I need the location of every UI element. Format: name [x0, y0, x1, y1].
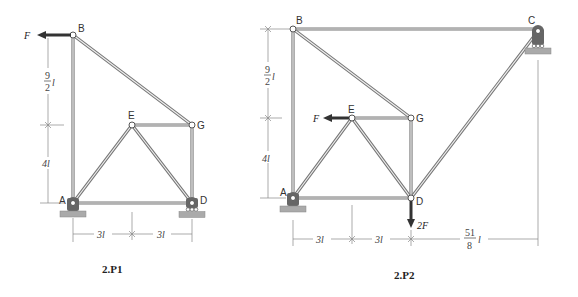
dim-upper-l-2p1: l	[52, 77, 55, 88]
dim-right-span-2p1: 3l	[156, 229, 165, 240]
dim-upper-l-2p2: l	[272, 71, 275, 82]
load-f-arrow-2p2	[323, 114, 349, 122]
dim-span2-2p2: 3l	[374, 234, 383, 245]
node-g-label-2p2: G	[416, 113, 424, 124]
node-d-label-2p2: D	[416, 196, 423, 207]
load-2f-arrow-2p2	[407, 201, 415, 228]
horizontal-dimension-2p1	[73, 212, 192, 242]
truss-diagrams: F B E G A D 9 2 l 4l	[0, 0, 578, 297]
node-b-label-2p2: B	[296, 15, 303, 26]
dim-upper-num-2p2: 9	[265, 64, 270, 75]
load-2f-label-2p2: 2F	[417, 220, 429, 231]
node-b-label-2p1: B	[78, 23, 85, 34]
load-f-arrow-2p1	[37, 31, 71, 39]
figure-2p1: F B E G A D 9 2 l 4l	[23, 23, 207, 275]
load-f-label-2p2: F	[312, 113, 320, 124]
node-a-label-2p2: A	[280, 187, 287, 198]
dim-span3-num-2p2: 51	[465, 227, 475, 238]
vertical-dimension-2p1	[40, 38, 64, 203]
caption-2p1: 2.P1	[102, 263, 122, 275]
horizontal-dimension-2p2	[293, 60, 538, 246]
node-d-label-2p1: D	[200, 195, 207, 206]
dim-lower-2p1: 4l	[42, 158, 50, 169]
dim-span3-den-2p2: 8	[467, 240, 472, 251]
dim-span3-l-2p2: l	[478, 234, 481, 245]
node-g-label-2p1: G	[197, 120, 205, 131]
load-f-label-2p1: F	[23, 30, 31, 41]
vertical-dimension-2p2	[260, 26, 290, 198]
node-e-label-2p2: E	[348, 104, 355, 115]
dim-span1-2p2: 3l	[315, 234, 324, 245]
caption-2p2: 2.P2	[394, 269, 415, 281]
dim-upper-den-2p2: 2	[265, 76, 270, 87]
dim-left-span-2p1: 3l	[96, 229, 105, 240]
node-e-label-2p1: E	[128, 110, 135, 121]
dim-upper-num-2p1: 9	[45, 70, 50, 81]
figure-2p2: F 2F B C E G A D 9 2 l 4l	[260, 15, 551, 281]
node-a-label-2p1: A	[59, 195, 66, 206]
dim-upper-den-2p1: 2	[45, 82, 50, 93]
node-c-label-2p2: C	[528, 15, 535, 26]
dim-lower-2p2: 4l	[262, 153, 270, 164]
